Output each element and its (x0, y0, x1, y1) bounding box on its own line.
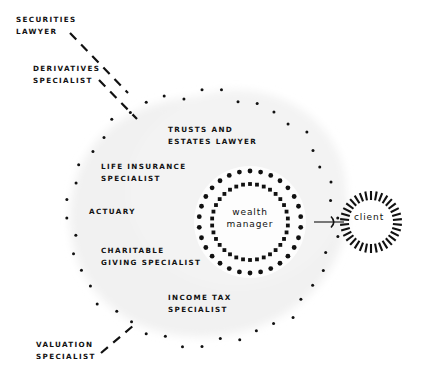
leader-line-valuation-specialist (101, 325, 134, 353)
diagram-graphics (0, 0, 429, 381)
network-diagram: SECURITIES LAWYER DERIVATIVES SPECIALIST… (0, 0, 429, 381)
label-actuary: ACTUARY (89, 206, 136, 218)
label-derivatives-specialist: DERIVATIVES SPECIALIST (33, 63, 100, 86)
label-life-insurance-specialist: LIFE INSURANCE SPECIALIST (101, 161, 186, 184)
label-valuation-specialist: VALUATION SPECIALIST (36, 339, 96, 362)
label-securities-lawyer: SECURITIES LAWYER (16, 14, 77, 37)
label-charitable-giving-specialist: CHARITABLE GIVING SPECIALIST (101, 245, 201, 268)
label-wealth-manager: wealth manager (219, 206, 281, 230)
label-client: client (348, 211, 390, 223)
label-trusts-and-estates-lawyer: TRUSTS AND ESTATES LAWYER (168, 124, 257, 147)
label-income-tax-specialist: INCOME TAX SPECIALIST (168, 292, 232, 315)
